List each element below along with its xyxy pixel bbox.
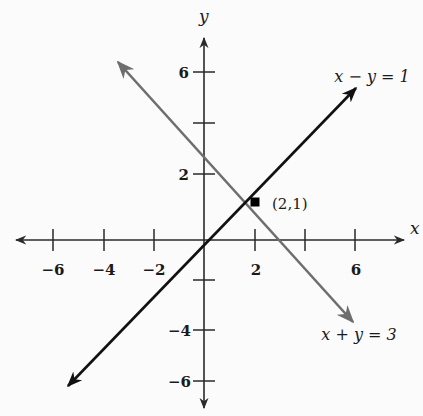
x-tick-label-neg2: −2 xyxy=(142,261,165,279)
y-tick-label-neg6: −6 xyxy=(168,373,191,391)
line-x-plus-y-eq-3 xyxy=(118,62,353,322)
y-tick-label-2: 2 xyxy=(179,166,189,184)
x-tick-label-neg4: −4 xyxy=(92,261,115,279)
x-tick-label-2: 2 xyxy=(251,261,261,279)
intersection-point xyxy=(251,198,260,207)
line-label-x-plus-y-eq-3: x + y = 3 xyxy=(321,325,396,344)
line-label-x-minus-y-eq-1: x − y = 1 xyxy=(334,67,409,86)
x-tick-label-neg6: −6 xyxy=(41,261,64,279)
line-x-minus-y-eq-1 xyxy=(68,88,356,386)
y-tick-label-neg4: −4 xyxy=(168,322,191,340)
x-tick-label-6: 6 xyxy=(351,261,361,279)
x-axis-label: x xyxy=(410,218,420,238)
intersection-label: (2,1) xyxy=(272,195,308,213)
y-tick-label-6: 6 xyxy=(179,64,189,82)
coordinate-plane: −6 −4 −2 2 6 6 2 −4 −6 x y x − y = 1 x +… xyxy=(0,0,423,416)
y-axis-label: y xyxy=(198,6,209,26)
